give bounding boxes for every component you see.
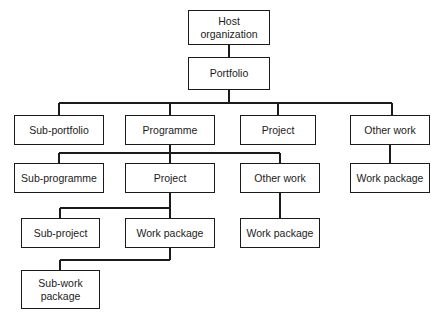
node-label-sub-programme: Sub-programme (19, 172, 99, 185)
node-sub-portfolio[interactable]: Sub-portfolio (14, 115, 104, 145)
node-label-host-organization: Host organization (198, 15, 259, 40)
node-label-other-work-l3: Other work (362, 124, 417, 137)
node-sub-work-package[interactable]: Sub-work package (21, 270, 100, 309)
node-project-l3[interactable]: Project (240, 115, 316, 145)
node-sub-project[interactable]: Sub-project (21, 218, 100, 248)
node-other-work-l4[interactable]: Other work (240, 163, 320, 193)
node-label-project-l4: Project (152, 172, 189, 185)
node-work-package-l5[interactable]: Work package (125, 218, 215, 248)
node-label-portfolio: Portfolio (208, 67, 251, 80)
node-project-l4[interactable]: Project (125, 163, 215, 193)
edge-project-l4-bus (60, 193, 170, 208)
node-programme[interactable]: Programme (125, 115, 215, 145)
node-work-package-r4[interactable]: Work package (350, 163, 430, 193)
edge-work-pkg-l5-to-sub-work-pkg (60, 248, 170, 270)
node-label-work-package-l5: Work package (135, 227, 206, 240)
node-label-sub-portfolio: Sub-portfolio (27, 124, 91, 137)
node-label-work-package-r4: Work package (355, 172, 426, 185)
node-label-programme: Programme (141, 124, 200, 137)
node-label-project-l3: Project (260, 124, 297, 137)
edge-portfolio-bus (59, 90, 392, 103)
node-label-work-package-m5: Work package (245, 227, 316, 240)
edge-programme-bus (59, 145, 280, 153)
node-label-sub-project: Sub-project (32, 227, 90, 240)
node-work-package-m5[interactable]: Work package (240, 218, 320, 248)
node-sub-programme[interactable]: Sub-programme (14, 163, 104, 193)
node-host-organization[interactable]: Host organization (188, 10, 270, 45)
node-label-sub-work-package: Sub-work package (36, 277, 84, 302)
node-label-other-work-l4: Other work (252, 172, 307, 185)
hierarchy-diagram: Host organizationPortfolioSub-portfolioP… (0, 0, 446, 319)
node-portfolio[interactable]: Portfolio (188, 57, 270, 90)
node-other-work-l3[interactable]: Other work (350, 115, 430, 145)
